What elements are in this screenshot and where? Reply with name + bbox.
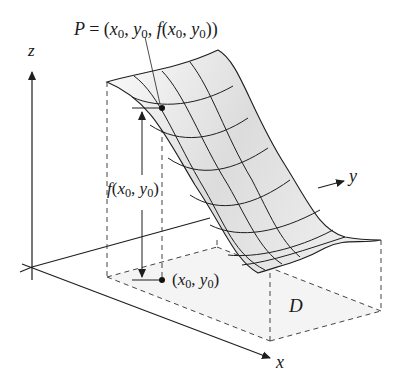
domain-label: D [289, 296, 303, 315]
origin-tick [20, 267, 32, 272]
z-axis-label: z [28, 42, 35, 59]
base-point-dot [159, 277, 165, 283]
point-P-label: P = (x0, y0, f(x0, y0)) [74, 20, 218, 41]
height-label: f(x0, y0) [107, 180, 159, 199]
surface-diagram [0, 0, 407, 389]
x-axis-label: x [276, 353, 284, 371]
y-axis-front [318, 181, 344, 188]
y-axis-label: y [349, 167, 357, 185]
base-point-label: (x0, y0) [172, 271, 219, 290]
point-P-dot [159, 105, 165, 111]
